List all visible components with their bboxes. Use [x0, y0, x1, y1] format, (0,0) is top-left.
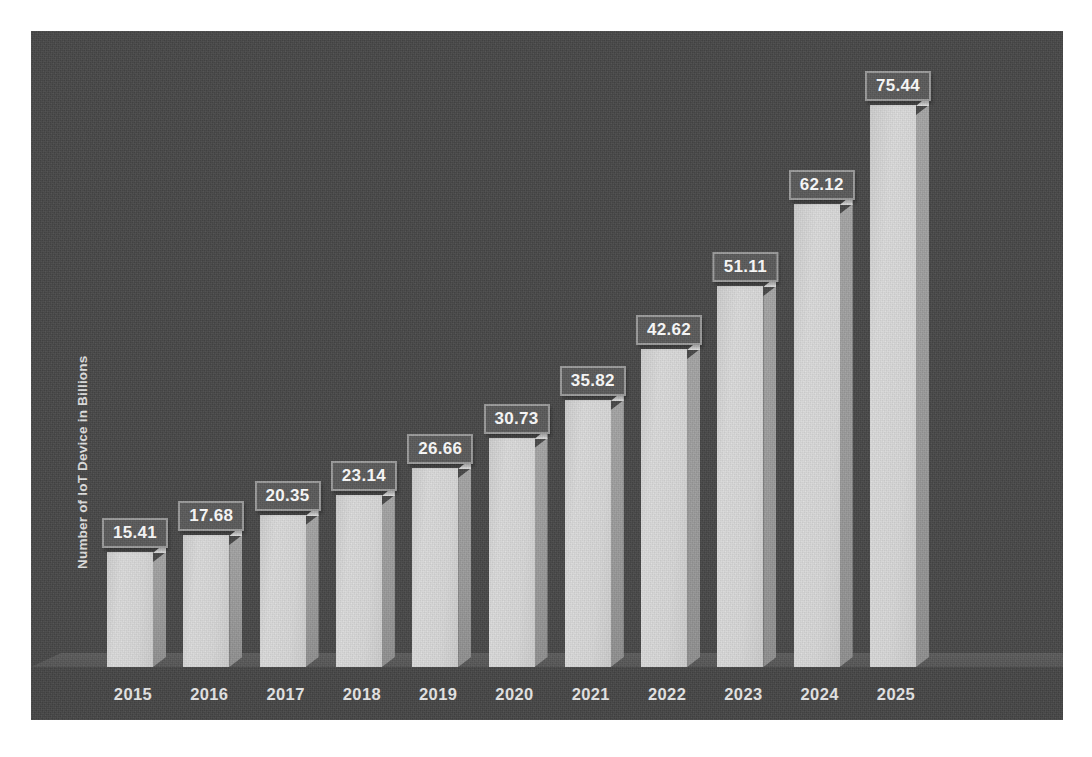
chart-canvas: 15.41201517.68201620.35201723.14201826.6… [31, 31, 1063, 720]
bar-side-face [840, 204, 853, 667]
bar-value-label-2020: 30.73 [483, 404, 549, 434]
bar-2024[interactable] [794, 204, 840, 667]
bar-2019[interactable] [412, 468, 458, 667]
bar-front-face [336, 495, 382, 667]
bar-front-face [183, 535, 229, 667]
bar-value-label-2023: 51.11 [713, 252, 778, 282]
bar-value-label-2015: 15.41 [102, 518, 168, 548]
bar-front-face [412, 468, 458, 667]
x-tick-2020: 2020 [495, 685, 533, 704]
bar-value-label-2019: 26.66 [407, 434, 473, 464]
bar-side-face [687, 349, 700, 667]
x-tick-2019: 2019 [419, 685, 457, 704]
bar-side-face [611, 400, 624, 667]
chart-page: 15.41201517.68201620.35201723.14201826.6… [0, 0, 1092, 757]
bar-front-face [565, 400, 611, 667]
bar-side-face [535, 438, 548, 667]
bar-front-face [489, 438, 535, 667]
bar-2025[interactable] [870, 105, 916, 667]
bar-2022[interactable] [641, 349, 687, 667]
bar-2020[interactable] [489, 438, 535, 667]
x-tick-2023: 2023 [724, 685, 762, 704]
bar-side-face [763, 286, 776, 667]
bar-side-face [458, 468, 471, 667]
bar-value-label-2025: 75.44 [865, 71, 931, 101]
bar-value-label-2018: 23.14 [331, 461, 397, 491]
bar-side-face [306, 515, 319, 667]
bar-side-face [153, 552, 166, 667]
x-tick-2016: 2016 [190, 685, 228, 704]
bar-front-face [794, 204, 840, 667]
bar-2015[interactable] [107, 552, 153, 667]
x-tick-2024: 2024 [801, 685, 839, 704]
x-tick-2022: 2022 [648, 685, 686, 704]
x-tick-2025: 2025 [877, 685, 915, 704]
bar-2017[interactable] [260, 515, 306, 667]
bar-front-face [641, 349, 687, 667]
bar-value-label-2016: 17.68 [178, 501, 244, 531]
bar-side-face [382, 495, 395, 667]
bar-value-label-2024: 62.12 [789, 170, 855, 200]
bar-2016[interactable] [183, 535, 229, 667]
bar-value-label-2021: 35.82 [560, 366, 626, 396]
bar-2023[interactable] [717, 286, 763, 667]
bar-front-face [870, 105, 916, 667]
bar-side-face [916, 105, 929, 667]
bar-front-face [107, 552, 153, 667]
y-axis-title: Number of IoT Device in Billions [75, 289, 90, 569]
x-tick-2017: 2017 [266, 685, 304, 704]
bar-value-label-2022: 42.62 [636, 315, 702, 345]
bar-front-face [260, 515, 306, 667]
x-tick-2018: 2018 [343, 685, 381, 704]
bar-2018[interactable] [336, 495, 382, 667]
bar-value-label-2017: 20.35 [255, 481, 321, 511]
x-tick-2021: 2021 [572, 685, 610, 704]
plot-area: 15.41201517.68201620.35201723.14201826.6… [31, 31, 1063, 720]
bar-front-face [717, 286, 763, 667]
x-tick-2015: 2015 [114, 685, 152, 704]
bar-2021[interactable] [565, 400, 611, 667]
bar-side-face [229, 535, 242, 667]
